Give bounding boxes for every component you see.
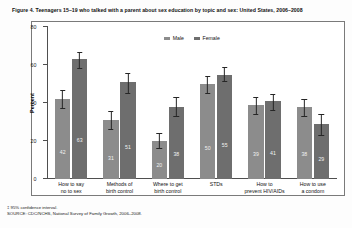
x-axis-label: STDs: [192, 181, 240, 188]
x-axis-label: How to sayno to sex: [47, 181, 95, 194]
ci-note-text: 95% confidence interval.: [11, 205, 58, 210]
bar-female[interactable]: 38: [169, 107, 185, 179]
error-bar: [174, 97, 180, 116]
ci-symbol: ‡: [7, 205, 9, 210]
bar-male[interactable]: 31: [103, 120, 119, 179]
figure-footnotes: ‡ 95% confidence interval. SOURCE: CDC/N…: [7, 205, 347, 217]
error-bar: [125, 73, 131, 94]
error-bar-cap-top: [157, 133, 163, 134]
bar-group: 5055: [192, 27, 240, 179]
bar-male[interactable]: 20: [152, 141, 168, 179]
error-bar: [77, 52, 83, 69]
bar-value-label: 51: [120, 144, 136, 150]
bar-value-label: 42: [55, 149, 71, 155]
error-bar-cap-bottom: [60, 108, 66, 109]
error-bar-line: [176, 97, 177, 116]
x-axis-label: Where to getbirth control: [144, 181, 192, 194]
error-bar-line: [273, 94, 274, 111]
error-bar-line: [79, 52, 80, 69]
bar-group: 3941: [240, 27, 288, 179]
bar-rect: [217, 75, 233, 180]
bar-rect: [169, 107, 185, 179]
bar-group: 3829: [289, 27, 337, 179]
error-bar-cap-top: [108, 111, 114, 112]
error-bar: [60, 90, 66, 109]
error-bar-cap-bottom: [222, 81, 228, 82]
bar-rect: [265, 101, 281, 179]
bar-female[interactable]: 29: [314, 124, 330, 179]
footnote-source: SOURCE: CDC/NCHS, National Survey of Fam…: [7, 211, 347, 217]
error-bar: [253, 97, 259, 114]
bar-rect: [72, 59, 88, 179]
bar-rect: [55, 99, 71, 179]
error-bar-cap-bottom: [302, 116, 308, 117]
error-bar-cap-top: [270, 94, 276, 95]
bar-group: 2038: [144, 27, 192, 179]
error-bar: [222, 67, 228, 82]
y-axis-tick-label: 0: [34, 176, 37, 182]
bar-value-label: 55: [217, 142, 233, 148]
error-bar-cap-top: [222, 67, 228, 68]
bar-male[interactable]: 50: [200, 84, 216, 179]
bar-value-label: 50: [200, 145, 216, 151]
bar-female[interactable]: 41: [265, 101, 281, 179]
plot-axes: Percent 020406080 Male Female 4263315120…: [47, 27, 337, 179]
y-axis-tick-label: 80: [31, 24, 37, 30]
x-axis-label: How to usea condom: [289, 181, 337, 194]
bar-group: 4263: [47, 27, 95, 179]
y-axis-tick-label: 20: [31, 138, 37, 144]
bar-value-label: 31: [103, 155, 119, 161]
bar-value-label: 38: [169, 151, 185, 157]
error-bar-cap-top: [205, 76, 211, 77]
error-bar-line: [159, 133, 160, 148]
error-bar-line: [128, 73, 129, 94]
error-bar-line: [321, 114, 322, 135]
error-bar-line: [62, 90, 63, 109]
bar-value-label: 29: [314, 156, 330, 162]
error-bar-cap-top: [77, 52, 83, 53]
error-bar-cap-bottom: [157, 148, 163, 149]
x-axis-category-labels: How to sayno to sexMethods ofbirth contr…: [47, 181, 337, 197]
bar-female[interactable]: 55: [217, 75, 233, 180]
error-bar-line: [224, 67, 225, 82]
figure-container: Figure 4. Teenagers 15–19 who talked wit…: [0, 0, 352, 228]
error-bar: [205, 76, 211, 93]
error-bar-cap-bottom: [253, 114, 259, 115]
bar-value-label: 63: [72, 137, 88, 143]
x-axis-label: Methods ofbirth control: [95, 181, 143, 194]
bar-group: 3151: [95, 27, 143, 179]
error-bar: [319, 114, 325, 135]
figure-title: Figure 4. Teenagers 15–19 who talked wit…: [12, 7, 348, 14]
error-bar-line: [256, 97, 257, 114]
bar-rect: [200, 84, 216, 179]
error-bar-cap-bottom: [108, 129, 114, 130]
error-bar-cap-bottom: [319, 135, 325, 136]
bar-rect: [248, 105, 264, 179]
error-bar-cap-top: [60, 90, 66, 91]
bar-male[interactable]: 42: [55, 99, 71, 179]
x-axis-label: How toprevent HIV/AIDs: [240, 181, 288, 194]
error-bar-cap-top: [302, 99, 308, 100]
bar-rect: [297, 107, 313, 179]
y-axis-tick-label: 60: [31, 62, 37, 68]
error-bar: [108, 111, 114, 130]
error-bar-cap-top: [125, 73, 131, 74]
error-bar-cap-bottom: [77, 68, 83, 69]
error-bar: [157, 133, 163, 148]
bar-male[interactable]: 39: [248, 105, 264, 179]
bar-female[interactable]: 51: [120, 82, 136, 179]
bar-male[interactable]: 38: [297, 107, 313, 179]
error-bar-line: [304, 99, 305, 116]
error-bar-cap-bottom: [205, 93, 211, 94]
error-bar-cap-top: [174, 97, 180, 98]
error-bar: [302, 99, 308, 116]
bar-rect: [120, 82, 136, 179]
bar-female[interactable]: 63: [72, 59, 88, 179]
error-bar-cap-top: [319, 114, 325, 115]
error-bar: [270, 94, 276, 111]
error-bar-cap-bottom: [174, 116, 180, 117]
bar-value-label: 39: [248, 151, 264, 157]
bar-series-layer: 426331512038505539413829: [47, 27, 337, 179]
error-bar-cap-bottom: [270, 110, 276, 111]
bar-value-label: 38: [297, 151, 313, 157]
